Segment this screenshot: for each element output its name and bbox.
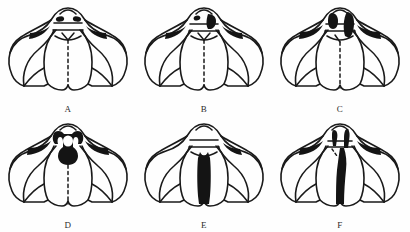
dark-patch-right-b	[207, 14, 217, 29]
head-apex-e	[196, 126, 212, 130]
dark-patch-left-c	[328, 13, 338, 29]
drawing-a	[0, 0, 136, 100]
dark-median-band-e	[197, 152, 211, 204]
mesal-left-e	[180, 146, 192, 200]
midline-group-b	[198, 33, 210, 87]
dark-mark-right-f	[344, 129, 350, 148]
figure-panel-a: A	[0, 0, 136, 116]
pale-center-d	[63, 136, 73, 147]
pigment-group-e	[197, 143, 242, 204]
mesal-right-b	[216, 30, 228, 84]
figure-panel-c: C	[272, 0, 408, 116]
left-suture-e	[160, 184, 180, 202]
dark-streak-right-a	[86, 26, 107, 39]
mesal-right-d	[80, 146, 92, 200]
midline-group-a	[62, 33, 74, 86]
left-lobe-edge-e	[146, 136, 187, 169]
dark-spot-right-a	[72, 16, 81, 23]
mesal-left-a	[44, 30, 56, 84]
right-suture-c	[364, 68, 384, 86]
mesal-right-e	[216, 146, 228, 200]
mesal-left-f	[316, 146, 328, 200]
right-suture-a	[92, 68, 112, 86]
dark-median-band-f	[336, 148, 346, 204]
panel-label-d: D	[0, 220, 136, 231]
head-apex-f	[332, 126, 348, 130]
mesal-left-c	[316, 30, 328, 84]
head-apex-a	[60, 10, 76, 14]
drawing-f	[272, 116, 408, 216]
mesal-right-a	[80, 30, 92, 84]
figure-panel-e: E	[136, 116, 272, 232]
panel-label-b: B	[136, 104, 272, 115]
midline-group-f	[332, 149, 337, 156]
midline-group-c	[335, 35, 340, 88]
figure-panel-f: F	[272, 116, 408, 232]
pigment-group-a	[29, 16, 107, 39]
left-suture-f	[296, 184, 316, 202]
figure-panel-b: B	[136, 0, 272, 116]
head-apex-d	[60, 126, 76, 130]
right-suture-e	[228, 184, 248, 202]
midline-fork-c	[335, 35, 340, 42]
right-lobe-edge-e	[221, 136, 262, 169]
left-suture-b	[160, 68, 180, 86]
left-suture-a	[24, 68, 44, 86]
mesal-right-f	[352, 146, 364, 200]
pigment-negative-d	[63, 136, 73, 147]
dark-patch-right-c	[344, 12, 354, 38]
head-apex-b	[196, 10, 212, 14]
panel-label-a: A	[0, 104, 136, 115]
dark-streak-right-e	[223, 143, 242, 155]
frontal-band-lower-e	[191, 152, 217, 156]
right-suture-d	[92, 184, 112, 202]
right-suture-b	[228, 68, 248, 86]
head-apex-c	[332, 10, 348, 14]
pigment-group-c	[299, 12, 381, 39]
dark-streak-left-a	[29, 26, 50, 39]
drawing-d	[0, 116, 136, 216]
dark-streak-left-b	[165, 26, 186, 39]
dark-streak-right-b	[222, 26, 243, 39]
drawing-e	[136, 116, 272, 216]
dark-spot-left-a	[55, 16, 64, 23]
figure-plate: A	[0, 0, 410, 232]
dark-spot-left-b	[193, 15, 201, 22]
panel-label-f: F	[272, 220, 408, 231]
dark-mark-left-f	[332, 130, 337, 146]
midline-fork-f	[332, 149, 337, 156]
mesal-left-d	[44, 146, 56, 200]
panel-grid: A	[0, 0, 408, 232]
drawing-b	[136, 0, 272, 100]
drawing-c	[272, 0, 408, 100]
right-suture-f	[364, 184, 384, 202]
mesal-right-c	[352, 30, 364, 84]
panel-label-e: E	[136, 220, 272, 231]
left-suture-d	[24, 184, 44, 202]
left-suture-c	[296, 68, 316, 86]
panel-label-c: C	[272, 104, 408, 115]
mesal-left-b	[180, 30, 192, 84]
figure-panel-d: D	[0, 116, 136, 232]
